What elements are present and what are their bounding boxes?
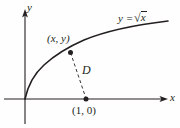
curve-equation-label: y =√x (118, 12, 147, 24)
radical-sign: √ (134, 11, 141, 25)
radical-expression: √x (133, 12, 146, 24)
curve-equation-lhs: y = (118, 12, 133, 24)
curve-point-label: (x, y) (47, 33, 70, 44)
x-axis-label: x (170, 92, 175, 103)
foot-point-dot (84, 97, 89, 102)
radicand: x (141, 11, 147, 23)
foot-point-label: (1, 0) (72, 105, 96, 116)
y-axis-label: y (27, 2, 32, 13)
distance-label: D (82, 64, 91, 76)
sqrt-distance-figure: y x (x, y) D (1, 0) y =√x (0, 0, 180, 128)
curve-point-dot (68, 50, 73, 55)
